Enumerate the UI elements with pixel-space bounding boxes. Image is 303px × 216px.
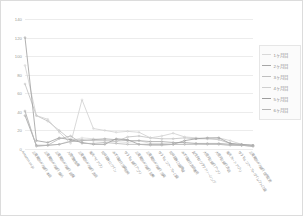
legend-item-label: 6ヶ月目	[274, 107, 289, 113]
legend-item[interactable]: 1ヶ月目	[262, 49, 298, 60]
legend-line-swatch	[262, 76, 271, 77]
x-axis-labels: Amazon.co.jp三菱東京UFJ銀行 本店三菱東京UFJ銀行 振込三菱東京…	[25, 150, 253, 216]
legend-line-swatch	[262, 109, 271, 110]
legend-item[interactable]: 4ヶ月目	[262, 82, 298, 93]
y-axis-tick-label: 40	[17, 109, 22, 114]
series-line	[25, 84, 253, 145]
y-axis-tick-label: 60	[17, 91, 22, 96]
y-axis-tick-label: 20	[17, 128, 22, 133]
legend-item-label: 4ヶ月目	[274, 85, 289, 91]
legend-line-swatch	[262, 98, 271, 99]
series-lines	[25, 19, 253, 149]
legend-item-label: 2ヶ月目	[274, 63, 289, 69]
legend-item[interactable]: 6ヶ月目	[262, 104, 298, 115]
line-chart-card: 020406080100120140 Amazon.co.jp三菱東京UFJ銀行…	[0, 0, 303, 216]
y-axis-tick-label: 120	[15, 35, 22, 40]
chart-legend: 1ヶ月目2ヶ月目3ヶ月目4ヶ月目5ヶ月目6ヶ月目	[259, 45, 301, 120]
series-line	[25, 112, 253, 146]
y-axis-tick-label: 140	[15, 17, 22, 22]
legend-line-swatch	[262, 87, 271, 88]
y-axis-tick-label: 80	[17, 72, 22, 77]
plot-wrapper: 020406080100120140	[25, 19, 253, 149]
legend-item-label: 5ヶ月目	[274, 96, 289, 102]
legend-line-swatch	[262, 54, 271, 55]
legend-item-label: 1ヶ月目	[274, 52, 289, 58]
legend-line-swatch	[262, 65, 271, 66]
series-line	[25, 38, 253, 146]
legend-item[interactable]: 5ヶ月目	[262, 93, 298, 104]
y-axis-tick-label: 100	[15, 54, 22, 59]
legend-item[interactable]: 2ヶ月目	[262, 60, 298, 71]
legend-item[interactable]: 3ヶ月目	[262, 71, 298, 82]
plot-area: 020406080100120140	[25, 19, 253, 149]
legend-item-label: 3ヶ月目	[274, 74, 289, 80]
